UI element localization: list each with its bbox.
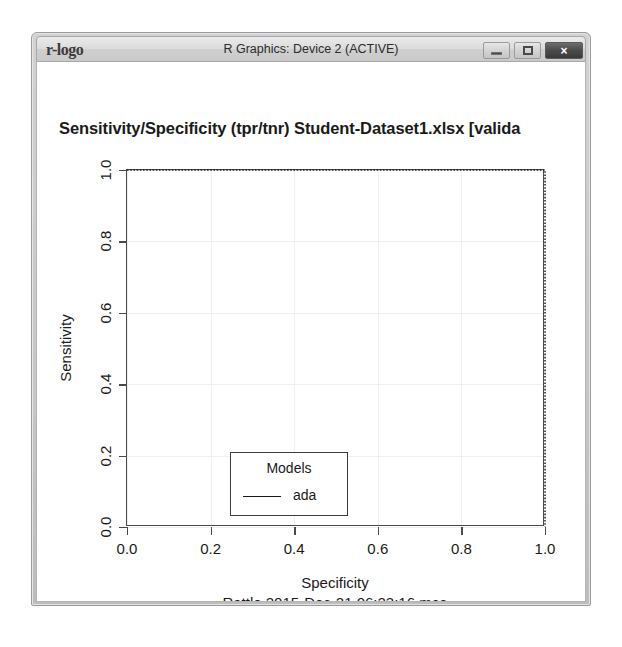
plot-area: 0.00.20.40.60.81.0 0.00.20.40.60.81.0 Se…: [126, 169, 544, 526]
y-tick-mark: [119, 456, 127, 457]
legend: Models ada: [230, 452, 348, 516]
x-tick-label: 0.4: [284, 540, 305, 557]
chart-title: Sensitivity/Specificity (tpr/tnr) Studen…: [59, 119, 586, 138]
gridline-vertical: [211, 170, 212, 525]
x-tick-label: 0.8: [451, 540, 472, 557]
maximize-icon: [523, 46, 533, 55]
minimize-button[interactable]: [483, 42, 510, 59]
x-tick-label: 0.2: [200, 540, 221, 557]
x-tick-mark: [545, 527, 546, 535]
legend-item-ada: ada: [231, 487, 347, 507]
gridline-horizontal: [127, 384, 543, 385]
x-tick-label: 0.0: [117, 540, 138, 557]
y-tick-mark: [119, 527, 127, 528]
y-tick-mark: [119, 384, 127, 385]
close-button[interactable]: ×: [545, 42, 583, 59]
legend-line-swatch: [243, 496, 281, 497]
x-axis-label: Specificity: [301, 574, 369, 591]
gridline-horizontal: [127, 527, 543, 528]
y-tick-label: 1.0: [97, 160, 114, 181]
y-tick-label: 0.2: [97, 445, 114, 466]
y-axis-label: Sensitivity: [57, 314, 74, 382]
window-title-bar[interactable]: r-logo R Graphics: Device 2 (ACTIVE) ×: [36, 36, 586, 62]
y-tick-mark: [119, 313, 127, 314]
gridline-vertical: [127, 170, 128, 525]
legend-item-label: ada: [293, 487, 316, 503]
y-tick-label: 0.8: [97, 231, 114, 252]
r-graphics-window: r-logo R Graphics: Device 2 (ACTIVE) × S…: [31, 32, 591, 606]
y-tick-mark: [119, 241, 127, 242]
y-tick-label: 0.6: [97, 302, 114, 323]
x-tick-mark: [378, 527, 379, 535]
maximize-button[interactable]: [514, 42, 541, 59]
x-tick-label: 1.0: [535, 540, 556, 557]
y-tick-mark: [119, 170, 127, 171]
legend-title: Models: [231, 460, 347, 476]
gridline-vertical: [378, 170, 379, 525]
minimize-icon: [491, 52, 502, 55]
y-tick-label: 0.4: [97, 374, 114, 395]
x-tick-mark: [294, 527, 295, 535]
gridline-vertical: [545, 170, 546, 525]
chart-annotation: Rattle 2015-Dec-21 06:23:16 mca: [222, 594, 447, 602]
gridline-horizontal: [127, 313, 543, 314]
gridline-horizontal: [127, 170, 543, 171]
x-tick-mark: [211, 527, 212, 535]
y-tick-label: 0.0: [97, 517, 114, 538]
close-icon: ×: [560, 45, 567, 57]
x-tick-mark: [461, 527, 462, 535]
gridline-horizontal: [127, 241, 543, 242]
x-tick-mark: [127, 527, 128, 535]
plot-canvas: Sensitivity/Specificity (tpr/tnr) Studen…: [36, 62, 586, 602]
x-tick-label: 0.6: [367, 540, 388, 557]
gridline-vertical: [461, 170, 462, 525]
